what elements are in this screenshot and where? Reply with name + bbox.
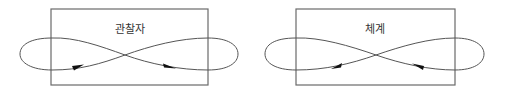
observer-box (51, 9, 208, 85)
system-box (296, 9, 455, 85)
system-figure-eight-curve (265, 38, 484, 70)
observer-figure-eight-curve (20, 38, 238, 70)
system-arrowhead-right (412, 64, 424, 71)
figure-eight-diagrams: 관찰자 체계 (0, 0, 505, 92)
system-diagram: 체계 (265, 9, 484, 85)
system-arrowhead-left (331, 63, 342, 69)
observer-label: 관찰자 (115, 23, 145, 36)
system-label: 체계 (365, 23, 385, 36)
observer-diagram: 관찰자 (20, 9, 238, 85)
